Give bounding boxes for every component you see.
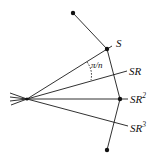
- label-angle: π/n: [91, 60, 103, 70]
- label-sr2: SR2: [130, 91, 146, 105]
- label-sr: SR: [129, 65, 142, 77]
- label-sr3: SR3: [130, 120, 146, 134]
- vertex-apex: [25, 97, 28, 100]
- ray-s: [27, 46, 112, 99]
- ray-sr: [27, 71, 127, 99]
- edge-s-sr2: [107, 49, 120, 99]
- vertex-s: [105, 47, 109, 51]
- apex-fan: [10, 93, 27, 105]
- edge-sr2-bottom: [107, 99, 120, 150]
- vertex-bottom: [105, 148, 109, 152]
- edge-top: [73, 13, 107, 49]
- reflection-diagram: S π/n SR SR2 SR3: [0, 0, 158, 163]
- vertex-sr2: [118, 97, 122, 101]
- label-s: S: [116, 37, 122, 49]
- vertex-top: [71, 11, 75, 15]
- ray-sr3: [27, 99, 128, 126]
